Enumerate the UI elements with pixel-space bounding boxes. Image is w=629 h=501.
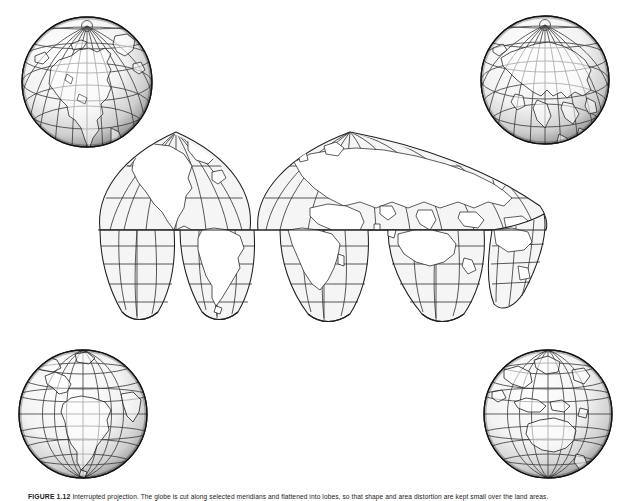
figure-caption-text: Interrupted projection. The globe is cut…: [72, 493, 548, 500]
figure-number: FIGURE 1.12: [28, 493, 70, 500]
globe-south-america: [15, 346, 155, 486]
lobe-eurasia-africa: [258, 132, 548, 230]
lobe-pacific: [100, 230, 174, 320]
globe-australia: [480, 346, 620, 486]
lobe-south-america: [180, 228, 254, 320]
lobe-africa: [280, 228, 368, 322]
lobe-north-americas: [100, 132, 251, 238]
interrupted-world-map: [88, 126, 550, 326]
lobe-australia: [388, 230, 484, 322]
figure-caption: FIGURE 1.12 Interrupted projection. The …: [28, 493, 619, 501]
